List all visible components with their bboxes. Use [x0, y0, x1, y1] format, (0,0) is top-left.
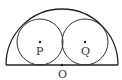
label-o: O — [58, 68, 67, 80]
geometry-diagram: P Q O — [0, 0, 122, 80]
point-p-dot — [39, 41, 41, 43]
label-q: Q — [81, 45, 90, 58]
point-q-dot — [84, 41, 86, 43]
label-p: P — [36, 45, 44, 58]
point-o-dot — [61, 64, 63, 66]
